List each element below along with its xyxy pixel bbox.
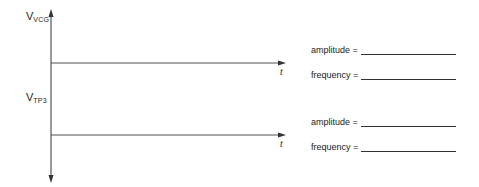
tp3-label-sub: TP3 <box>33 97 46 104</box>
field-label: amplitude = <box>311 117 358 127</box>
vcg-frequency-field: frequency = <box>311 70 456 80</box>
amplitude-blank-input[interactable] <box>361 46 456 55</box>
right-arrow-icon <box>278 133 286 138</box>
field-label: amplitude = <box>311 45 358 55</box>
axes-drawing <box>0 0 479 187</box>
time-label-vcg: t <box>280 66 283 77</box>
time-label-tp3: t <box>280 138 283 149</box>
tp3-amplitude-field: amplitude = <box>311 117 456 127</box>
right-arrow-icon <box>278 61 286 66</box>
tp3-axis-label: VTP3 <box>26 91 47 104</box>
frequency-blank-input[interactable] <box>361 71 456 80</box>
vcg-axis-label: VVCG <box>26 10 49 23</box>
up-arrow-icon <box>49 9 54 17</box>
amplitude-blank-input[interactable] <box>361 118 456 127</box>
field-label: frequency = <box>311 70 358 80</box>
vcg-label-sub: VCG <box>33 16 49 23</box>
tp3-frequency-field: frequency = <box>311 142 456 152</box>
down-arrow-icon <box>49 175 54 183</box>
frequency-blank-input[interactable] <box>361 143 456 152</box>
vcg-amplitude-field: amplitude = <box>311 45 456 55</box>
field-label: frequency = <box>311 142 358 152</box>
